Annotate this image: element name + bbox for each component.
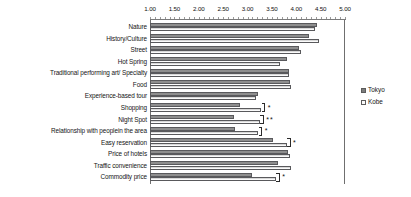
x-minor-tick-mark xyxy=(291,17,292,19)
category-label: History/Culture xyxy=(0,35,147,42)
significance-stars: * xyxy=(293,139,297,147)
category-label: Nature xyxy=(0,23,147,30)
plot-area xyxy=(150,20,345,184)
x-minor-tick-mark xyxy=(160,17,161,19)
x-tick-label: 3.00 xyxy=(242,5,253,13)
x-minor-tick-mark xyxy=(194,17,195,19)
x-minor-tick-mark xyxy=(174,17,175,19)
bar-tokyo xyxy=(150,161,278,165)
bar-kobe xyxy=(150,73,289,77)
category-label: Night Spot xyxy=(0,116,147,123)
x-minor-tick-mark xyxy=(218,17,219,19)
legend-label: Tokyo xyxy=(368,86,385,94)
category-label: Shopping xyxy=(0,104,147,111)
x-tick-label: 1.50 xyxy=(169,5,180,13)
x-tick-label: 4.50 xyxy=(315,5,326,13)
x-minor-tick-mark xyxy=(155,17,156,19)
x-minor-tick-mark xyxy=(345,17,346,19)
bar-tokyo xyxy=(150,80,290,84)
x-tick-label: 2.50 xyxy=(217,5,228,13)
bar-tokyo xyxy=(150,92,258,96)
x-minor-tick-mark xyxy=(296,17,297,19)
significance-bracket xyxy=(276,173,280,182)
bar-kobe xyxy=(150,120,260,124)
bar-kobe xyxy=(150,39,319,43)
x-tick-label: 4.00 xyxy=(291,5,302,13)
x-minor-tick-mark xyxy=(213,17,214,19)
significance-bracket xyxy=(262,103,266,112)
significance-bracket xyxy=(287,138,291,147)
category-label: Commodity price xyxy=(0,173,147,180)
category-label: Price of hotels xyxy=(0,150,147,157)
bar-tokyo xyxy=(150,150,288,154)
x-minor-tick-mark xyxy=(150,17,151,19)
category-label: Relationship with peoplein the area xyxy=(0,127,147,134)
legend-label: Kobe xyxy=(368,98,383,106)
x-tick-label: 2.00 xyxy=(193,5,204,13)
x-minor-tick-mark xyxy=(223,17,224,19)
bar-tokyo xyxy=(150,103,240,107)
x-minor-tick-mark xyxy=(321,17,322,19)
x-minor-tick-mark xyxy=(287,17,288,19)
category-label: Experience-based tour xyxy=(0,92,147,99)
x-minor-tick-mark xyxy=(170,17,171,19)
bar-tokyo xyxy=(150,173,252,177)
x-tick-label: 3.50 xyxy=(266,5,277,13)
x-axis-tick-labels: 1.001.502.002.503.003.504.004.505.00 xyxy=(0,5,411,15)
bar-tokyo xyxy=(150,34,309,38)
x-minor-tick-mark xyxy=(282,17,283,19)
category-label: Traffic convenience xyxy=(0,162,147,169)
bar-kobe xyxy=(150,143,287,147)
x-minor-tick-mark xyxy=(252,17,253,19)
legend-item-kobe[interactable]: Kobe xyxy=(361,96,409,108)
bar-kobe xyxy=(150,62,280,66)
x-minor-tick-mark xyxy=(306,17,307,19)
kobe-swatch xyxy=(361,100,366,105)
x-tick-label: 5.00 xyxy=(339,5,350,13)
bar-kobe xyxy=(150,131,258,135)
x-minor-tick-mark xyxy=(335,17,336,19)
bar-chart: 1.001.502.002.503.003.504.004.505.00 Nat… xyxy=(0,0,411,197)
x-tick-label: 1.00 xyxy=(144,5,155,13)
bar-tokyo xyxy=(150,46,299,50)
bar-kobe xyxy=(150,85,291,89)
x-minor-tick-mark xyxy=(248,17,249,19)
x-minor-tick-mark xyxy=(267,17,268,19)
bar-tokyo xyxy=(150,127,235,131)
category-label: Traditional performing art/ Specialty xyxy=(0,69,147,76)
x-minor-tick-mark xyxy=(199,17,200,19)
bar-kobe xyxy=(150,177,276,181)
x-minor-tick-mark xyxy=(340,17,341,19)
x-minor-tick-mark xyxy=(233,17,234,19)
x-minor-tick-mark xyxy=(184,17,185,19)
bar-tokyo xyxy=(150,115,234,119)
x-minor-tick-mark xyxy=(301,17,302,19)
x-minor-tick-mark xyxy=(204,17,205,19)
x-minor-tick-mark xyxy=(326,17,327,19)
x-minor-tick-mark xyxy=(165,17,166,19)
chart-legend: TokyoKobe xyxy=(361,84,409,108)
tokyo-swatch xyxy=(361,88,366,93)
bar-kobe xyxy=(150,108,261,112)
significance-bracket xyxy=(260,115,264,124)
x-minor-tick-mark xyxy=(257,17,258,19)
x-minor-tick-mark xyxy=(243,17,244,19)
category-label: Street xyxy=(0,46,147,53)
x-minor-tick-mark xyxy=(262,17,263,19)
significance-stars: * xyxy=(265,127,269,135)
bar-tokyo xyxy=(150,69,289,73)
category-label: Food xyxy=(0,81,147,88)
x-minor-tick-mark xyxy=(228,17,229,19)
x-minor-tick-mark xyxy=(209,17,210,19)
x-minor-tick-mark xyxy=(238,17,239,19)
bar-kobe xyxy=(150,96,256,100)
category-label: Easy reservation xyxy=(0,139,147,146)
x-minor-tick-mark xyxy=(179,17,180,19)
legend-item-tokyo[interactable]: Tokyo xyxy=(361,84,409,96)
significance-bracket xyxy=(259,127,263,136)
category-label: Hot Spring xyxy=(0,58,147,65)
bar-tokyo xyxy=(150,57,287,61)
significance-stars: ** xyxy=(266,116,274,124)
bar-kobe xyxy=(150,50,301,54)
x-minor-tick-mark xyxy=(330,17,331,19)
